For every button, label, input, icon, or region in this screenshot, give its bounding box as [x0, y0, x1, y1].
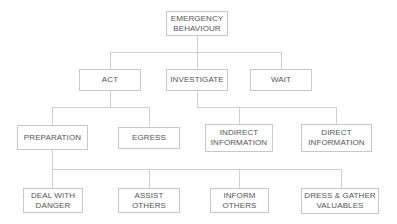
node-dress-gather-valuables: DRESS & GATHER VALUABLES	[301, 188, 379, 214]
node-deal-with-danger: DEAL WITH DANGER	[23, 188, 83, 213]
node-direct-information: DIRECT INFORMATION	[301, 124, 372, 152]
node-assist-others: ASSIST OTHERS	[118, 188, 180, 213]
node-act: ACT	[79, 69, 141, 91]
node-preparation: PREPARATION	[17, 125, 88, 150]
node-egress: EGRESS	[118, 127, 180, 149]
node-indirect-information: INDIRECT INFORMATION	[205, 124, 273, 152]
node-investigate: INVESTIGATE	[166, 69, 228, 91]
node-emergency-behaviour: EMERGENCY BEHAVIOUR	[166, 11, 228, 36]
node-inform-others: INFORM OTHERS	[210, 188, 269, 213]
node-wait: WAIT	[250, 69, 312, 91]
